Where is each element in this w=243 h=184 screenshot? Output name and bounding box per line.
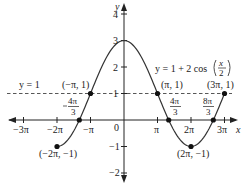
zero-4pi3 [166,117,171,122]
label-neg2pi-neg1: (−2π, −1) [39,148,77,160]
x-tick-m3pi: −3π [13,124,29,135]
x-axis-arrow-right-icon [230,117,238,123]
label-3pi-1: (3π, 1) [207,79,234,91]
equation-label: y = 1 + 2 cos [155,63,207,74]
y-tick-0: 0 [114,122,119,133]
y-tick-1: 1 [113,88,118,99]
frac-4pi-3: 4π 3 [170,96,181,117]
svg-text:4π: 4π [170,96,180,106]
label-neg-pi-1: (−π, 1) [62,79,89,91]
svg-text:3: 3 [71,107,76,117]
x-tick-m2pi: −2π [47,124,63,135]
y-tick-2: 2 [113,62,118,73]
point-pi [155,91,160,96]
x-tick-2pi: 2π [184,124,194,135]
eq-paren-right [228,60,230,76]
zero-neg4pi3 [77,117,82,122]
x-tick-3pi: 3π [217,124,227,135]
svg-text:3: 3 [173,107,178,117]
x-tick-pi: π [154,124,159,135]
point-negpi [88,91,93,96]
zero-8pi3 [211,117,216,122]
eq-frac-num: x [218,58,223,68]
y-tick-3: 3 [113,35,118,46]
point-3pi [222,91,227,96]
eq-paren-left [214,60,216,76]
y-tick-m1: −1 [109,141,120,152]
x-tick-mpi: −π [83,124,94,135]
hline-label: y = 1 [19,79,40,90]
eq-frac-den: 2 [219,68,224,78]
label-2pi-neg1: (2π, −1) [177,148,209,160]
label-pi-1: (π, 1) [161,79,183,91]
svg-text:8π: 8π [203,96,213,106]
x-axis-arrow-left-icon [8,117,16,123]
y-axis-arrow-up-icon [121,3,127,11]
frac-8pi-3: 8π 3 [203,96,214,117]
frac-neg-4pi-3: 4π 3 [63,96,79,117]
x-axis-label: x [235,124,241,135]
svg-text:4π: 4π [68,96,78,106]
y-axis-arrow-down-icon [121,175,127,183]
y-tick-m2: −2 [109,167,120,178]
y-tick-4: 4 [113,9,118,20]
graph: y x 4 3 2 1 0 −1 −2 −3π −2π −π π 2π 3π y… [0,0,243,184]
svg-text:3: 3 [206,107,211,117]
